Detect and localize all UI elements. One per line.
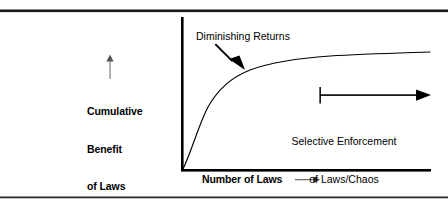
x-axis-title: Number of Laws (202, 174, 282, 186)
down-right-arrow-icon (215, 44, 245, 71)
y-axis-title-line-2: Benefit (87, 143, 143, 156)
y-axis-title-line-1: Cumulative (87, 105, 143, 118)
diminishing-returns-label: Diminishing Returns (196, 31, 290, 43)
right-arrow-range-icon (319, 87, 431, 104)
selective-enforcement-line-1: Selective Enforcement (282, 135, 406, 148)
y-axis-title-line-3: of Laws (87, 180, 143, 193)
diminishing-returns-figure: Cumulative Benefit of Laws Number of Law… (0, 0, 448, 205)
y-axis-line (181, 17, 184, 171)
top-rule (0, 10, 448, 13)
selective-enforcement-label: Selective Enforcement of Laws/Chaos (282, 110, 406, 205)
selective-enforcement-line-2: of Laws/Chaos (282, 173, 406, 186)
up-arrow-icon (106, 55, 113, 80)
y-axis-title: Cumulative Benefit of Laws (87, 80, 143, 205)
